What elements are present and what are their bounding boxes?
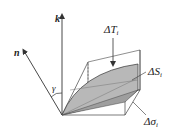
delta-t-label: ΔTi [104, 24, 119, 35]
delta-s-subscript: i [160, 71, 162, 79]
gamma-angle-arc [51, 93, 62, 97]
k-vector-label: k [55, 14, 60, 24]
delta-sigma-label: Δσi [144, 116, 158, 127]
n-vector-label: n [14, 48, 20, 58]
delta-t-subscript: i [117, 29, 119, 37]
delta-s-symbol: ΔS [148, 65, 160, 77]
delta-s-label: ΔSi [148, 66, 162, 77]
gamma-angle-label: γ [52, 84, 56, 93]
delta-t-symbol: ΔT [104, 23, 117, 35]
delta-sigma-subscript: i [156, 121, 158, 129]
delta-sigma-symbol: Δσ [144, 115, 156, 127]
delta-sigma-leader [133, 102, 146, 115]
n-vector-arrow [24, 51, 62, 115]
